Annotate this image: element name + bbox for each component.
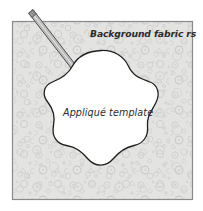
background-fabric-label: Background fabric rs: [90, 28, 197, 39]
illustration-canvas: Background fabric rs Appliqué template: [0, 0, 203, 211]
applique-template-label: Appliqué template: [62, 107, 153, 118]
